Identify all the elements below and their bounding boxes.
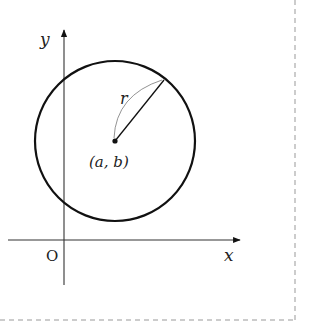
x-axis-label: x [224, 245, 234, 265]
center-label: (a, b) [89, 153, 129, 171]
center-point [112, 138, 117, 143]
y-axis-label: y [39, 29, 50, 49]
origin-label: O [46, 247, 58, 265]
radius-label: r [120, 89, 129, 108]
diagram-canvas: y x O r (a, b) [0, 0, 309, 329]
